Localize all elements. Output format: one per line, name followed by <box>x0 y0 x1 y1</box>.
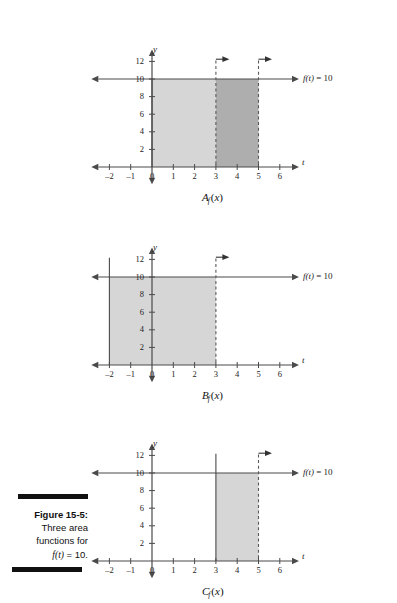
function-label-arg-A: (t) <box>305 73 314 83</box>
arrowhead-t-axis-r-B <box>292 362 299 368</box>
x-tick-label-0-C: 0 <box>144 566 160 575</box>
function-label-C: f(t) = 10 <box>303 467 333 477</box>
y-tick-label-2-C: 2 <box>128 539 144 548</box>
x-tick-label-6-C: 6 <box>272 566 288 575</box>
panel-area-function-A: –2–1012345624681012tyf(t) = 10Af(x) <box>0 6 397 202</box>
x-axis-name-A: t <box>302 157 305 167</box>
x-tick-label-neg1-C: –1 <box>123 566 139 575</box>
x-tick-label-6-B: 6 <box>272 370 288 379</box>
arrowhead-t-axis-r-C <box>292 558 299 564</box>
function-label-arg-C: (t) <box>305 467 314 477</box>
x-tick-label-4-C: 4 <box>229 566 245 575</box>
x-tick-label-6-A: 6 <box>272 172 288 181</box>
y-tick-label-12-C: 12 <box>128 451 144 460</box>
function-label-value-C: = 10 <box>314 467 333 477</box>
x-tick-label-0-B: 0 <box>144 370 160 379</box>
y-tick-label-4-C: 4 <box>128 521 144 530</box>
function-label-arg-B: (t) <box>305 271 314 281</box>
shaded-region-light-C <box>216 473 259 561</box>
x-tick-label-5-A: 5 <box>251 172 267 181</box>
y-tick-label-8-A: 8 <box>128 92 144 101</box>
x-tick-label-neg2-B: –2 <box>101 370 117 379</box>
shaded-region-light-B <box>109 277 215 365</box>
y-tick-label-8-B: 8 <box>128 290 144 299</box>
y-tick-label-6-B: 6 <box>128 308 144 317</box>
x-tick-label-1-C: 1 <box>165 566 181 575</box>
x-tick-label-2-A: 2 <box>187 172 203 181</box>
x-tick-label-5-B: 5 <box>251 370 267 379</box>
motion-arrow-head-t5-A <box>265 56 272 62</box>
arrowhead-t-axis-r-A <box>292 164 299 170</box>
panel-area-function-B: –2–1012345624681012tyf(t) = 10Bf(x) <box>0 204 397 400</box>
y-tick-label-10-B: 10 <box>128 273 144 282</box>
x-tick-label-2-B: 2 <box>187 370 203 379</box>
arrowhead-function-line-l-A <box>91 76 98 82</box>
arrowhead-t-axis-l-B <box>91 362 98 368</box>
y-tick-label-2-B: 2 <box>128 343 144 352</box>
y-tick-label-12-A: 12 <box>128 57 144 66</box>
x-tick-label-neg2-A: –2 <box>101 172 117 181</box>
x-tick-label-4-A: 4 <box>229 172 245 181</box>
y-tick-label-10-C: 10 <box>128 469 144 478</box>
figure-caption-block <box>12 494 92 499</box>
panel-caption-tail-C: (x) <box>211 585 223 597</box>
panel-caption-tail-A: (x) <box>211 191 223 203</box>
x-tick-label-3-B: 3 <box>208 370 224 379</box>
x-tick-label-3-A: 3 <box>208 172 224 181</box>
y-axis-name-C: y <box>153 438 157 448</box>
x-tick-label-neg1-B: –1 <box>123 370 139 379</box>
y-tick-label-8-C: 8 <box>128 486 144 495</box>
y-tick-label-4-B: 4 <box>128 325 144 334</box>
function-label-B: f(t) = 10 <box>303 271 333 281</box>
figure-15-5: –2–1012345624681012tyf(t) = 10Af(x) –2–1… <box>0 0 397 603</box>
x-tick-label-1-B: 1 <box>165 370 181 379</box>
y-tick-label-12-B: 12 <box>128 255 144 264</box>
function-label-A: f(t) = 10 <box>303 73 333 83</box>
arrowhead-function-line-l-C <box>91 470 98 476</box>
arrowhead-function-line-l-B <box>91 274 98 280</box>
x-tick-label-0-A: 0 <box>144 172 160 181</box>
x-tick-label-neg1-A: –1 <box>123 172 139 181</box>
figure-caption-line-3: functions for <box>0 534 88 547</box>
x-tick-label-4-B: 4 <box>229 370 245 379</box>
x-tick-label-1-A: 1 <box>165 172 181 181</box>
figure-caption-text: Figure 15-5: Three area functions for f(… <box>0 508 88 562</box>
figure-caption-label: Figure 15-5: <box>0 508 88 521</box>
y-axis-name-A: y <box>153 44 157 54</box>
figure-caption-rest: = 10. <box>64 549 88 560</box>
figure-caption-line-4: f(t) = 10. <box>0 548 88 562</box>
y-tick-label-10-A: 10 <box>128 75 144 84</box>
panel-caption-sub-C: f <box>208 590 210 599</box>
x-tick-label-3-C: 3 <box>208 566 224 575</box>
motion-arrow-head-t3-A <box>222 56 229 62</box>
panel-caption-A: Af(x) <box>202 191 223 203</box>
x-axis-name-C: t <box>302 551 305 561</box>
x-tick-label-5-C: 5 <box>251 566 267 575</box>
function-label-value-A: = 10 <box>314 73 333 83</box>
x-axis-name-B: t <box>302 355 305 365</box>
arrowhead-function-line-r-B <box>292 274 299 280</box>
caption-rule-top <box>18 494 88 499</box>
shaded-region-light-A <box>152 79 216 167</box>
y-axis-name-B: y <box>153 242 157 252</box>
arrowhead-function-line-r-A <box>292 76 299 82</box>
figure-caption-line-2: Three area <box>0 521 88 534</box>
figure-caption-arg: (t) <box>55 550 64 560</box>
panel-caption-C: Cf(x) <box>202 585 224 597</box>
x-tick-label-2-C: 2 <box>187 566 203 575</box>
y-tick-label-2-A: 2 <box>128 145 144 154</box>
caption-rule-bottom <box>12 567 82 572</box>
arrowhead-function-line-r-C <box>292 470 299 476</box>
y-tick-label-6-A: 6 <box>128 110 144 119</box>
y-tick-label-4-A: 4 <box>128 127 144 136</box>
y-tick-label-6-C: 6 <box>128 504 144 513</box>
arrowhead-t-axis-l-A <box>91 164 98 170</box>
function-label-value-B: = 10 <box>314 271 333 281</box>
motion-arrow-head-t5-C <box>265 450 272 456</box>
arrowhead-t-axis-l-C <box>91 558 98 564</box>
shaded-region-dark-A <box>216 79 259 167</box>
motion-arrow-head-t3-B <box>222 254 229 260</box>
x-tick-label-neg2-C: –2 <box>101 566 117 575</box>
